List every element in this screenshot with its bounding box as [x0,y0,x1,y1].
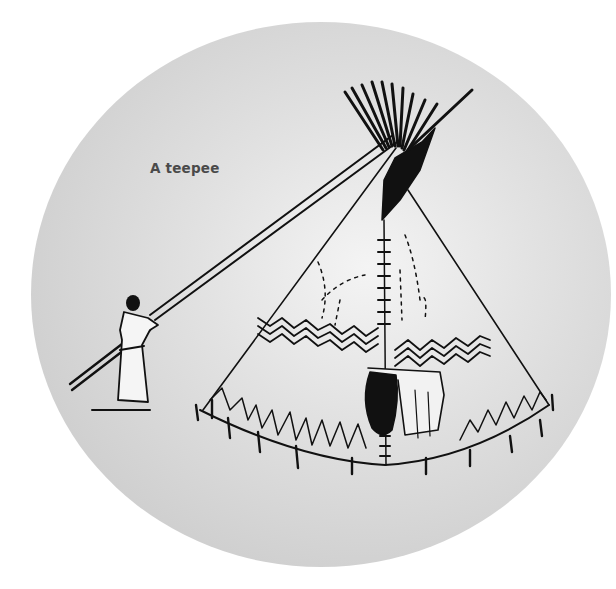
person-figure [92,295,158,410]
door-opening [365,372,397,435]
teepee-illustration [0,0,616,589]
